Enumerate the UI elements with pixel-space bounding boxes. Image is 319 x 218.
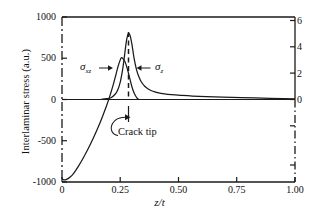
sigma-z-subscript: z — [160, 67, 163, 75]
crack-tip-arrow-head — [125, 114, 131, 120]
x-tick-label-0: 0 — [42, 184, 82, 195]
x-tick-label-050: 0.50 — [159, 184, 199, 195]
y-left-tick-label-1000: 1000 — [10, 11, 56, 22]
x-tick-label-100: 1.00 — [275, 184, 315, 195]
y-right-ticks — [290, 21, 295, 166]
x-tick-label-025: 0.25 — [100, 184, 140, 195]
series-label-sigma-z: σz — [155, 60, 163, 75]
y-left-tick-label-0: 0 — [10, 94, 56, 105]
sigma-xz-subscript: xz — [85, 67, 91, 75]
y-right-tick-label-0: 0 — [297, 94, 319, 105]
x-tick-label-075: 0.75 — [217, 184, 257, 195]
y-left-tick-label-minus500: -500 — [10, 135, 56, 146]
x-ticks — [62, 177, 295, 182]
curve-sigma-z — [102, 33, 295, 99]
x-axis-title: z/t — [0, 196, 319, 208]
y-right-tick-label-2: 2 — [297, 68, 319, 79]
crack-tip-label: Crack tip — [118, 126, 157, 137]
y-left-ticks — [62, 17, 67, 182]
y-left-tick-label-500: 500 — [10, 52, 56, 63]
y-right-tick-label-4: 4 — [297, 41, 319, 52]
sigma-z-arrow-head — [137, 65, 142, 70]
chart-figure: Interlaminar stress (a.u.) z/t 1000 500 … — [0, 0, 319, 218]
series-label-sigma-xz: σxz — [80, 60, 91, 75]
sigma-xz-arrow-head — [108, 65, 113, 70]
y-right-tick-label-6: 6 — [297, 15, 319, 26]
